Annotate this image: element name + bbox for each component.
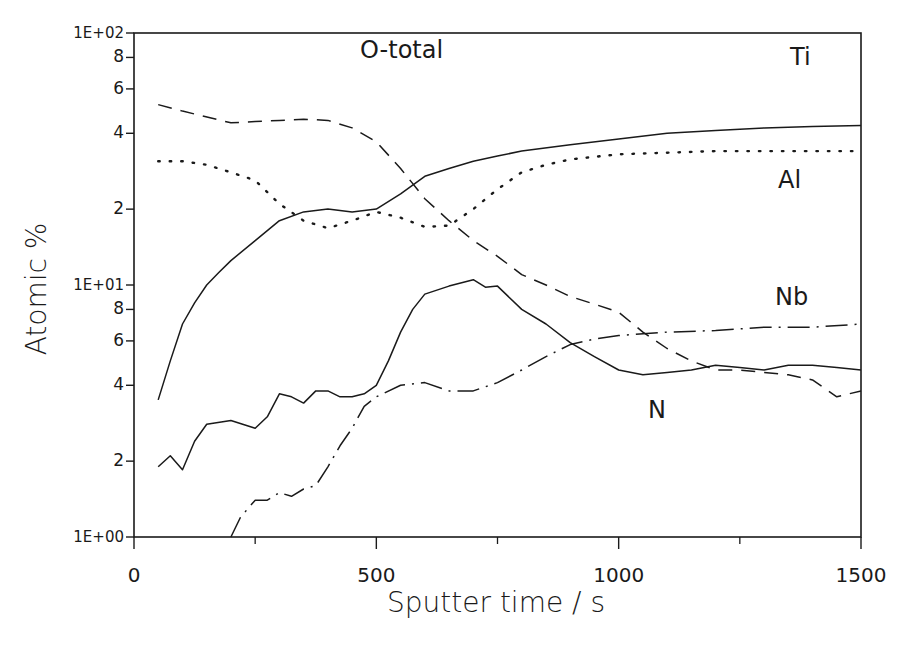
x-tick-label: 1500 [836, 563, 887, 587]
y-tick-label: 8 [113, 46, 124, 66]
chart: 1E+0024681E+0124681E+02 050010001500 O-t… [0, 0, 909, 648]
x-axis-title: Sputter time / s [387, 586, 605, 619]
y-tick-label: 6 [113, 78, 124, 98]
y-tick-label: 2 [113, 198, 124, 218]
series-nb [231, 324, 861, 537]
series-ti [158, 125, 861, 400]
plot-frame [134, 33, 861, 537]
plot-area-border [134, 33, 861, 537]
y-tick-label: 8 [113, 298, 124, 318]
y-tick-label: 4 [113, 374, 124, 394]
series-label-al: Al [778, 166, 801, 194]
series-n [158, 280, 861, 470]
y-tick-label: 4 [113, 122, 124, 142]
series-al [158, 151, 861, 228]
x-tick-label: 1000 [593, 563, 644, 587]
y-tick-label: 6 [113, 330, 124, 350]
series-label-o-total: O-total [360, 36, 443, 64]
series-label-ti: Ti [789, 43, 811, 71]
series-label-nb: Nb [775, 283, 808, 311]
y-tick-label: 2 [113, 450, 124, 470]
series-label-n: N [648, 396, 666, 424]
series-labels: O-totalTiAlNNb [360, 36, 811, 424]
x-tick-label: 500 [357, 563, 395, 587]
y-tick-label: 1E+02 [73, 24, 124, 42]
y-tick-label: 1E+01 [73, 276, 124, 294]
y-axis-title: Atomic % [20, 223, 53, 356]
series-layer [158, 105, 861, 537]
x-axis: 050010001500 [128, 537, 887, 587]
y-tick-label: 1E+00 [73, 528, 124, 546]
y-axis: 1E+0024681E+0124681E+02 [73, 24, 134, 546]
x-tick-label: 0 [128, 563, 141, 587]
series-o-total [158, 105, 861, 397]
